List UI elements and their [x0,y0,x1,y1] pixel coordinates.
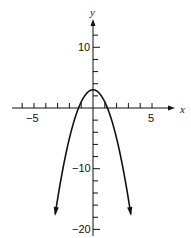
axes [12,19,175,236]
x-tick-label-neg5: −5 [26,112,39,124]
y-tick-label-10: 10 [78,41,90,53]
parabola-chart: y x −5 5 10 −10 −20 [0,0,191,238]
x-tick-label-5: 5 [148,112,154,124]
y-tick-label-neg10: −10 [72,162,91,174]
y-axis-label: y [89,6,95,18]
x-axis-label: x [179,103,185,115]
tick-marks [22,35,152,229]
y-tick-label-neg20: −20 [72,223,91,235]
